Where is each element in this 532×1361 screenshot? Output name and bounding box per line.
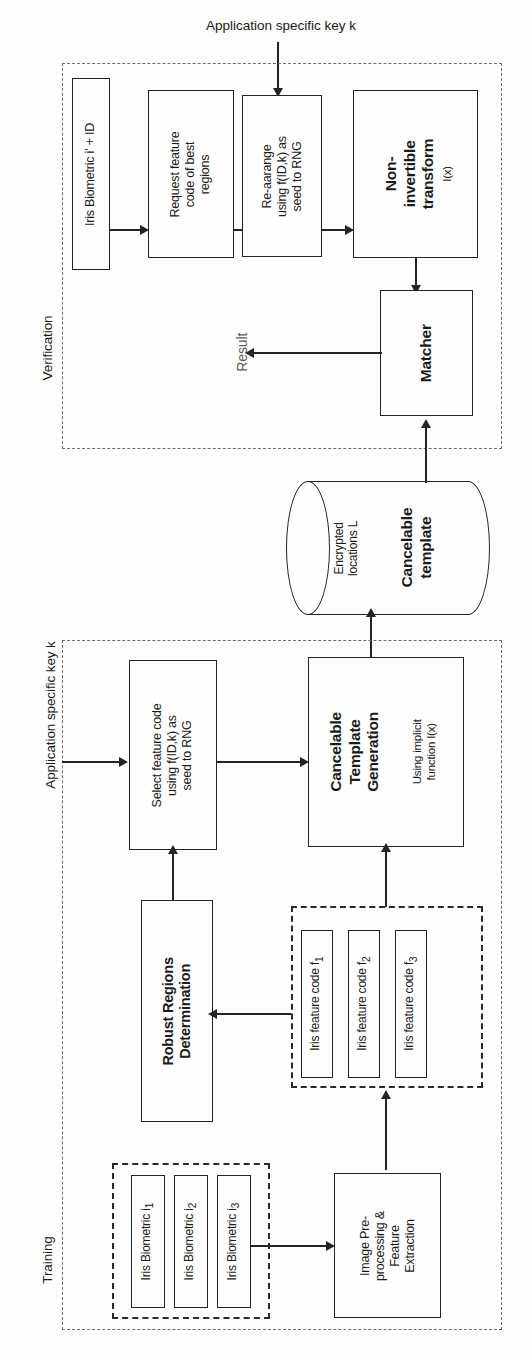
iris-biometric-3-box: Iris Biometric i3 xyxy=(217,1175,251,1308)
biometric-3-text: Iris Biometric i xyxy=(225,1208,239,1280)
arrow-appkey-to-select xyxy=(62,761,124,763)
iris-feature-code-3-box: Iris feature code f3 xyxy=(395,930,427,1078)
store-sub-line-2: locations L xyxy=(347,520,361,575)
cancelable-template-store: Encrypted locations L Cancelable templat… xyxy=(286,481,490,615)
biometric-2-sub: 2 xyxy=(188,1203,199,1208)
transform-line-2: invertible xyxy=(401,141,418,208)
request-feature-code-box: Request feature code of best regions xyxy=(148,90,234,258)
image-preprocessing-label: Image Pre- processing & Feature Extracti… xyxy=(358,1211,418,1281)
transform-line-3: transform xyxy=(420,139,437,210)
arrow-store-to-matcher-line xyxy=(425,425,427,483)
request-line-2: code of best xyxy=(184,141,198,207)
iris-biometric-3-label: Iris Biometric i3 xyxy=(225,1203,242,1281)
arrow-preprocess-to-features-line xyxy=(385,1095,387,1170)
non-invertible-transform-sub: I(x) xyxy=(441,166,455,182)
preprocess-line-1: Image Pre- xyxy=(358,1216,372,1276)
request-feature-code-label: Request feature code of best regions xyxy=(169,131,214,217)
non-invertible-transform-title: Non- invertible transform xyxy=(383,139,439,210)
iris-feature-code-1-label: Iris feature code f1 xyxy=(308,957,325,1051)
ctg-title-line-1: Cancelable xyxy=(327,712,344,792)
app-key-bottom-label: Application specific key k xyxy=(43,640,59,790)
iris-feature-code-2-label: Iris feature code f2 xyxy=(355,957,372,1051)
verification-input-box: Iris Biometric i' + ID xyxy=(72,78,110,270)
iris-feature-code-2-box: Iris feature code f2 xyxy=(348,930,380,1078)
rearrange-line-2: using f(ID,k) as xyxy=(275,136,289,217)
app-key-top-label: Application specific key k xyxy=(206,18,356,34)
feature-1-text: Iris feature code f xyxy=(308,962,322,1051)
select-feature-code-box: Select feature code using f(ID,k) as see… xyxy=(129,660,217,850)
arrowhead-ctg-to-store xyxy=(366,608,376,617)
matcher-label: Matcher xyxy=(417,324,436,382)
robust-line-2: Determination xyxy=(177,964,193,1059)
arrow-features-to-robust xyxy=(213,1013,291,1015)
arrowhead-appkey-to-select xyxy=(119,757,128,767)
cancelable-template-generation-box: Cancelable Template Generation Using imp… xyxy=(308,657,464,847)
preprocess-line-3: Feature xyxy=(388,1225,402,1267)
select-line-1: Select feature code xyxy=(151,703,165,807)
iris-biometric-1-label: Iris Biometric i1 xyxy=(139,1203,156,1281)
biometric-2-text: Iris Biometric i xyxy=(182,1208,196,1280)
arrow-input-to-request xyxy=(110,229,144,231)
ctg-subtitle: Using implicit function I(x) xyxy=(411,720,439,785)
biometric-3-sub: 3 xyxy=(231,1203,242,1208)
store-title-line-1: Cancelable xyxy=(398,508,415,588)
feature-3-sub: 3 xyxy=(408,957,419,962)
arrowhead-robust-to-select xyxy=(168,845,178,854)
ctg-sub-line-2: function I(x) xyxy=(425,723,437,780)
arrowhead-features-to-ctg xyxy=(381,843,391,852)
select-line-2: using f(ID,k) as xyxy=(166,715,180,796)
iris-feature-code-1-box: Iris feature code f1 xyxy=(301,930,333,1078)
non-invertible-transform-box: Non- invertible transform I(x) xyxy=(353,90,478,258)
feature-2-sub: 2 xyxy=(361,957,372,962)
training-section-label: Training xyxy=(40,1210,56,1310)
verification-section-label: Verification xyxy=(40,298,56,398)
select-line-3: seed to RNG xyxy=(181,720,195,790)
figure-canvas: Application specific key k Verification … xyxy=(0,0,532,1361)
ctg-sub-line-1: Using implicit xyxy=(411,720,423,785)
feature-1-sub: 1 xyxy=(314,957,325,962)
arrow-matcher-to-result xyxy=(252,352,382,354)
robust-regions-determination-box: Robust Regions Determination xyxy=(141,900,213,1122)
rearrange-line-3: seed to RNG xyxy=(290,141,304,211)
feature-3-text: Iris feature code f xyxy=(402,962,416,1051)
image-preprocessing-box: Image Pre- processing & Feature Extracti… xyxy=(334,1173,441,1318)
arrowhead-preprocess-to-features xyxy=(381,1090,391,1099)
iris-feature-code-3-label: Iris feature code f3 xyxy=(402,957,419,1051)
biometric-1-sub: 1 xyxy=(145,1203,156,1208)
iris-biometric-2-box: Iris Biometric i2 xyxy=(174,1175,208,1308)
store-sub-line-1: Encrypted xyxy=(333,522,347,574)
result-label: Result xyxy=(234,312,251,392)
cylinder-text: Encrypted locations L Cancelable templat… xyxy=(286,481,490,615)
rearrange-label: Re-aarange using f(ID,k) as seed to RNG xyxy=(260,136,305,217)
preprocess-line-4: Extraction xyxy=(403,1219,417,1273)
store-subtitle: Encrypted locations L xyxy=(333,520,362,575)
store-title-line-2: template xyxy=(417,517,434,579)
matcher-box: Matcher xyxy=(380,290,473,416)
arrow-robust-to-select-line xyxy=(172,850,174,900)
request-line-1: Request feature xyxy=(169,131,183,217)
rearrange-box: Re-aarange using f(ID,k) as seed to RNG xyxy=(242,95,322,257)
robust-line-1: Robust Regions xyxy=(160,957,176,1065)
iris-biometric-1-box: Iris Biometric i1 xyxy=(131,1175,165,1308)
ctg-title-line-3: Generation xyxy=(364,712,381,792)
arrow-biometrics-to-preprocess xyxy=(251,1245,332,1247)
transform-line-1: Non- xyxy=(383,157,400,192)
store-title: Cancelable template xyxy=(398,508,435,588)
iris-biometric-2-label: Iris Biometric i2 xyxy=(182,1203,199,1281)
feature-2-text: Iris feature code f xyxy=(355,962,369,1051)
robust-regions-label: Robust Regions Determination xyxy=(160,957,195,1065)
arrow-select-to-ctg xyxy=(217,761,307,763)
select-feature-code-label: Select feature code using f(ID,k) as see… xyxy=(151,703,196,807)
arrowhead-store-to-matcher xyxy=(421,419,431,428)
biometric-1-text: Iris Biometric i xyxy=(139,1208,153,1280)
ctg-title-line-2: Template xyxy=(345,719,362,784)
arrowhead-features-to-robust xyxy=(208,1009,217,1019)
request-line-3: regions xyxy=(199,154,213,194)
verification-input-label: Iris Biometric i' + ID xyxy=(84,122,99,225)
rearrange-line-1: Re-aarange xyxy=(260,144,274,208)
arrow-features-to-ctg-line xyxy=(385,847,387,907)
preprocess-line-2: processing & xyxy=(373,1211,387,1281)
ctg-title: Cancelable Template Generation xyxy=(327,712,383,792)
